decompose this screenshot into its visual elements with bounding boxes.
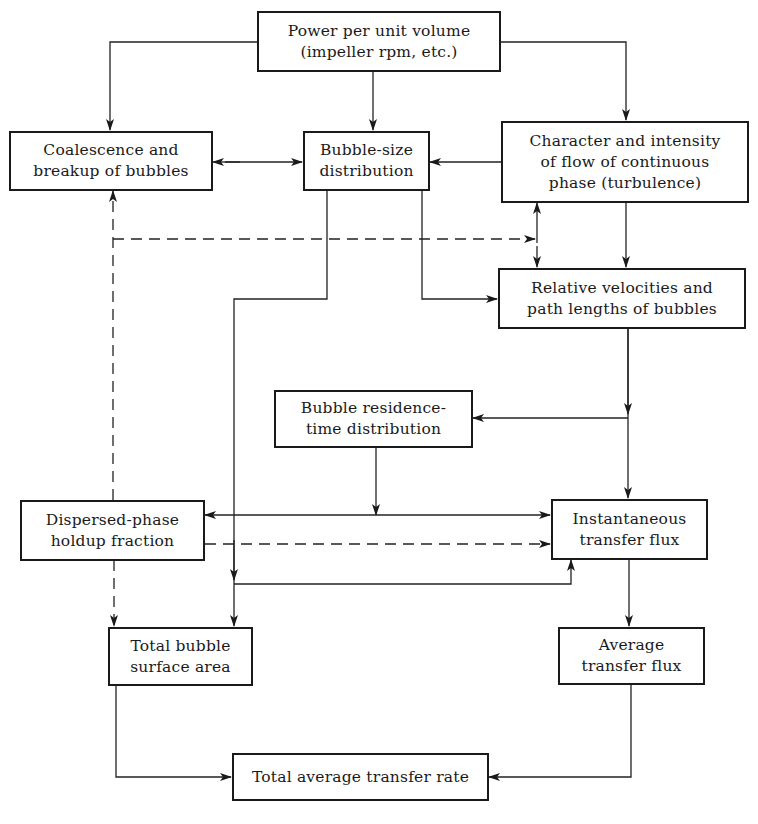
node-instantaneous-transfer-flux: Instantaneous transfer flux [551,499,708,560]
node-label: Total average transfer rate [252,767,469,788]
node-label: Power per unit volume [288,21,471,42]
edge-bubblesize-relative [422,190,497,299]
node-label: Total bubble [130,636,230,657]
node-label: distribution [319,161,413,182]
node-label: Character and intensity [529,131,720,152]
node-dispersed-phase-holdup: Dispersed-phase holdup fraction [20,500,205,561]
node-average-transfer-flux: Average transfer flux [558,627,705,685]
node-power-per-unit-volume: Power per unit volume (impeller rpm, etc… [257,11,501,72]
edge-totalsurface-totalrate [116,685,231,777]
node-total-average-transfer-rate: Total average transfer rate [232,753,489,801]
node-label: Average [599,635,665,656]
node-character-intensity-flow: Character and intensity of flow of conti… [501,121,749,203]
node-label: breakup of bubbles [33,161,188,182]
node-label: Coalescence and [43,140,178,161]
node-label: Bubble-size [320,140,413,161]
edge-power-character [500,42,626,120]
node-label: Instantaneous [572,509,686,530]
edge-average-totalrate [489,684,631,777]
flowchart-diagram: Power per unit volume (impeller rpm, etc… [0,0,758,824]
node-label: time distribution [306,419,441,440]
node-bubble-residence-time: Bubble residence- time distribution [274,390,473,448]
node-label: transfer flux [579,530,679,551]
node-label: phase (turbulence) [549,173,701,194]
edge-bubblesize-instantaneous [234,560,571,584]
node-total-bubble-surface-area: Total bubble surface area [108,627,253,686]
node-label: holdup fraction [51,531,175,552]
node-label: Bubble residence- [301,398,446,419]
node-label: Relative velocities and [531,278,713,299]
edge-power-coalescence [110,42,257,130]
node-coalescence-breakup: Coalescence and breakup of bubbles [9,131,213,191]
node-label: surface area [130,657,231,678]
node-relative-velocities: Relative velocities and path lengths of … [498,268,746,329]
node-bubble-size-distribution: Bubble-size distribution [303,131,430,191]
node-label: (impeller rpm, etc.) [300,42,457,63]
node-label: transfer flux [581,656,681,677]
node-label: of flow of continuous [541,152,710,173]
node-label: Dispersed-phase [46,510,179,531]
node-label: path lengths of bubbles [527,299,717,320]
